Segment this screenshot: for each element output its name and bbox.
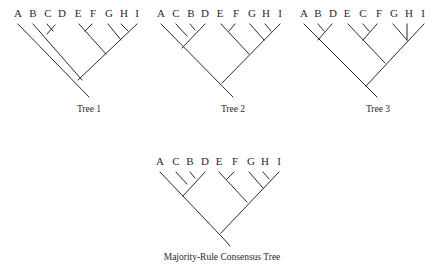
taxon-label: C <box>359 8 366 19</box>
taxon-label: H <box>120 8 128 19</box>
taxon-label: F <box>233 8 239 19</box>
consensus-tree-caption: Majority-Rule Consensus Tree <box>164 252 281 262</box>
taxon-label: A <box>300 8 308 19</box>
taxon-label: H <box>261 156 269 167</box>
taxon-label: F <box>90 8 96 19</box>
consensus-tree-branches <box>160 172 279 246</box>
taxon-label: F <box>232 156 238 167</box>
tree-diagram <box>0 0 439 270</box>
phylogenetic-trees-figure: A B C D E F G H I Tree 1 A C B D E F G H… <box>0 0 439 270</box>
taxon-label: E <box>344 8 351 19</box>
taxon-label: B <box>29 8 36 19</box>
taxon-label: D <box>58 8 66 19</box>
taxon-label: B <box>187 8 194 19</box>
taxon-label: I <box>277 156 281 167</box>
tree-2-branches <box>161 24 280 97</box>
taxon-label: D <box>329 8 337 19</box>
taxon-label: C <box>172 8 179 19</box>
taxon-label: H <box>262 8 270 19</box>
taxon-label: A <box>156 156 164 167</box>
taxon-label: F <box>376 8 382 19</box>
taxon-label: E <box>216 156 223 167</box>
taxon-label: H <box>405 8 413 19</box>
taxon-label: E <box>217 8 224 19</box>
tree-3-caption: Tree 3 <box>366 104 390 114</box>
tree-1-branches <box>18 24 137 97</box>
taxon-label: E <box>75 8 82 19</box>
tree-1-caption: Tree 1 <box>77 104 101 114</box>
taxon-label: I <box>135 8 139 19</box>
taxon-label: C <box>172 156 179 167</box>
taxon-label: C <box>44 8 51 19</box>
taxon-label: A <box>157 8 165 19</box>
taxon-label: I <box>421 8 425 19</box>
taxon-label: I <box>278 8 282 19</box>
taxon-label: G <box>390 8 398 19</box>
taxon-label: A <box>14 8 22 19</box>
taxon-label: D <box>201 8 209 19</box>
taxon-label: D <box>201 156 209 167</box>
tree-2-caption: Tree 2 <box>221 104 245 114</box>
taxon-label: B <box>186 156 193 167</box>
taxon-label: B <box>314 8 321 19</box>
taxon-label: G <box>105 8 113 19</box>
taxon-label: G <box>248 8 256 19</box>
taxon-label: G <box>247 156 255 167</box>
tree-3-branches <box>304 24 424 97</box>
